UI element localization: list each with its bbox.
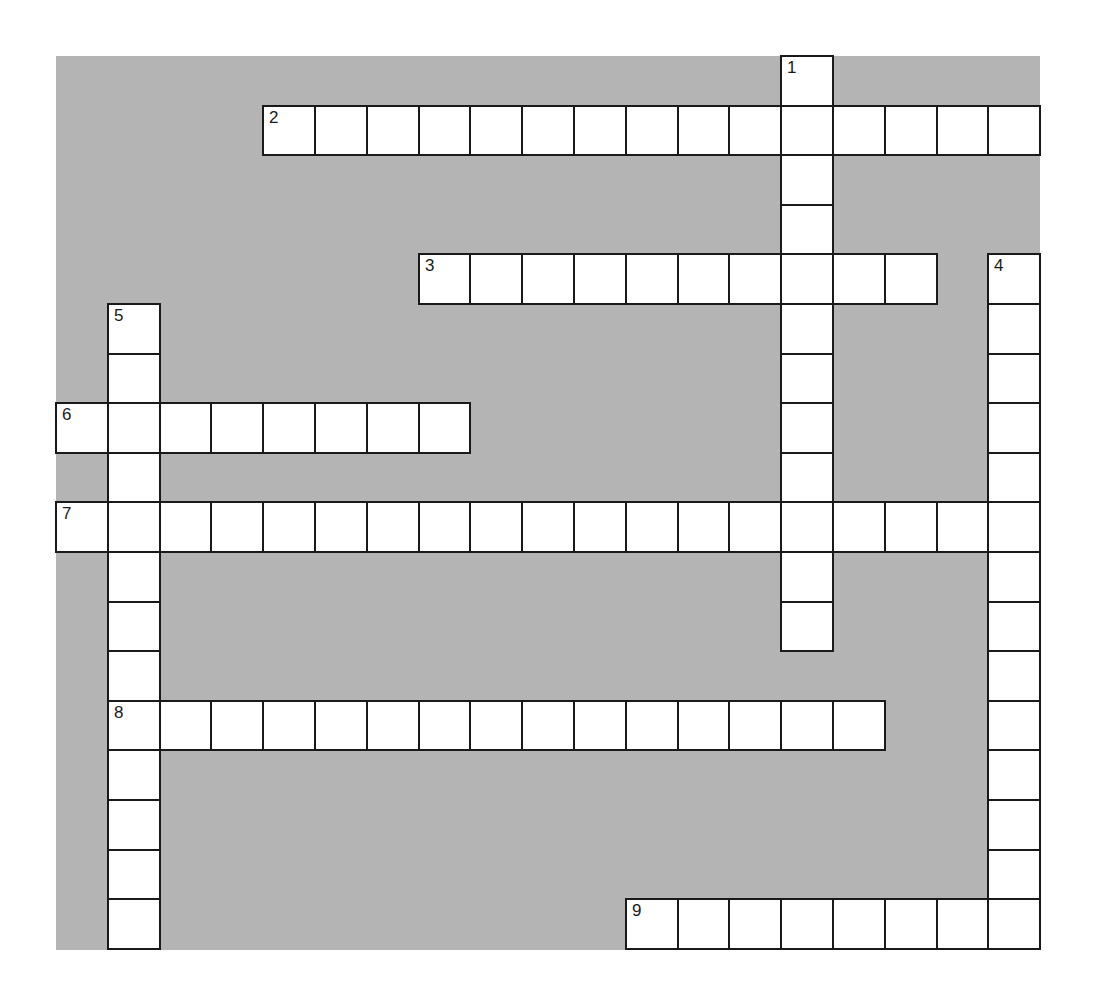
letter-input[interactable] bbox=[523, 255, 573, 303]
crossword-cell[interactable] bbox=[107, 601, 161, 652]
letter-input[interactable] bbox=[989, 851, 1039, 898]
letter-input[interactable] bbox=[938, 107, 987, 154]
crossword-cell[interactable] bbox=[987, 105, 1041, 156]
letter-input[interactable] bbox=[109, 851, 159, 898]
letter-input[interactable] bbox=[420, 255, 469, 303]
crossword-cell[interactable] bbox=[780, 253, 834, 305]
letter-input[interactable] bbox=[782, 107, 832, 154]
crossword-cell[interactable] bbox=[521, 253, 575, 305]
letter-input[interactable] bbox=[782, 503, 832, 551]
crossword-cell[interactable] bbox=[832, 898, 886, 950]
letter-input[interactable] bbox=[989, 900, 1039, 948]
crossword-cell[interactable] bbox=[418, 105, 471, 156]
crossword-cell[interactable] bbox=[107, 452, 161, 503]
crossword-cell[interactable] bbox=[832, 501, 886, 553]
letter-input[interactable] bbox=[782, 603, 832, 650]
letter-input[interactable] bbox=[730, 255, 780, 303]
crossword-cell[interactable] bbox=[780, 303, 834, 355]
crossword-cell[interactable]: 4 bbox=[987, 253, 1041, 305]
crossword-cell[interactable] bbox=[521, 501, 575, 553]
crossword-cell[interactable] bbox=[884, 105, 938, 156]
letter-input[interactable] bbox=[161, 503, 210, 551]
crossword-cell[interactable] bbox=[780, 898, 834, 950]
letter-input[interactable] bbox=[575, 107, 625, 154]
crossword-cell[interactable] bbox=[107, 849, 161, 900]
crossword-cell[interactable] bbox=[987, 700, 1041, 751]
letter-input[interactable] bbox=[57, 404, 107, 452]
crossword-cell[interactable] bbox=[987, 353, 1041, 404]
letter-input[interactable] bbox=[471, 702, 521, 749]
letter-input[interactable] bbox=[627, 255, 677, 303]
crossword-cell[interactable] bbox=[987, 898, 1041, 950]
crossword-cell[interactable] bbox=[625, 105, 679, 156]
letter-input[interactable] bbox=[109, 454, 159, 501]
crossword-cell[interactable] bbox=[107, 353, 161, 404]
crossword-cell[interactable] bbox=[832, 253, 886, 305]
letter-input[interactable] bbox=[109, 404, 159, 452]
crossword-cell[interactable] bbox=[987, 402, 1041, 454]
crossword-cell[interactable] bbox=[780, 601, 834, 652]
letter-input[interactable] bbox=[57, 503, 107, 551]
crossword-cell[interactable] bbox=[521, 700, 575, 751]
crossword-cell[interactable] bbox=[987, 749, 1041, 801]
crossword-cell[interactable] bbox=[677, 105, 730, 156]
letter-input[interactable] bbox=[316, 503, 366, 551]
crossword-cell[interactable] bbox=[625, 501, 679, 553]
letter-input[interactable] bbox=[730, 503, 780, 551]
letter-input[interactable] bbox=[109, 801, 159, 849]
crossword-cell[interactable] bbox=[780, 501, 834, 553]
crossword-cell[interactable] bbox=[987, 650, 1041, 702]
letter-input[interactable] bbox=[782, 57, 832, 105]
crossword-cell[interactable] bbox=[987, 849, 1041, 900]
crossword-cell[interactable] bbox=[469, 105, 523, 156]
crossword-cell[interactable]: 9 bbox=[625, 898, 679, 950]
letter-input[interactable] bbox=[989, 355, 1039, 402]
crossword-cell[interactable] bbox=[677, 898, 730, 950]
letter-input[interactable] bbox=[575, 503, 625, 551]
crossword-cell[interactable] bbox=[573, 105, 627, 156]
letter-input[interactable] bbox=[627, 107, 677, 154]
letter-input[interactable] bbox=[782, 900, 832, 948]
crossword-cell[interactable] bbox=[314, 105, 368, 156]
letter-input[interactable] bbox=[834, 503, 884, 551]
letter-input[interactable] bbox=[989, 107, 1039, 154]
crossword-cell[interactable] bbox=[780, 154, 834, 206]
letter-input[interactable] bbox=[212, 404, 262, 452]
letter-input[interactable] bbox=[471, 503, 521, 551]
crossword-cell[interactable]: 5 bbox=[107, 303, 161, 355]
crossword-cell[interactable] bbox=[884, 501, 938, 553]
letter-input[interactable] bbox=[523, 107, 573, 154]
crossword-cell[interactable] bbox=[884, 898, 938, 950]
crossword-cell[interactable] bbox=[936, 898, 989, 950]
letter-input[interactable] bbox=[938, 900, 987, 948]
crossword-cell[interactable] bbox=[832, 700, 886, 751]
letter-input[interactable] bbox=[109, 355, 159, 402]
crossword-cell[interactable] bbox=[418, 700, 471, 751]
letter-input[interactable] bbox=[989, 702, 1039, 749]
crossword-cell[interactable] bbox=[107, 898, 161, 950]
letter-input[interactable] bbox=[627, 503, 677, 551]
letter-input[interactable] bbox=[109, 603, 159, 650]
letter-input[interactable] bbox=[627, 702, 677, 749]
letter-input[interactable] bbox=[212, 503, 262, 551]
letter-input[interactable] bbox=[316, 107, 366, 154]
crossword-cell[interactable] bbox=[107, 402, 161, 454]
letter-input[interactable] bbox=[679, 900, 728, 948]
letter-input[interactable] bbox=[782, 305, 832, 353]
letter-input[interactable] bbox=[368, 404, 418, 452]
crossword-cell[interactable] bbox=[521, 105, 575, 156]
crossword-cell[interactable] bbox=[573, 700, 627, 751]
letter-input[interactable] bbox=[523, 503, 573, 551]
crossword-cell[interactable] bbox=[107, 551, 161, 603]
letter-input[interactable] bbox=[989, 603, 1039, 650]
letter-input[interactable] bbox=[989, 553, 1039, 601]
crossword-cell[interactable]: 7 bbox=[55, 501, 109, 553]
crossword-cell[interactable] bbox=[210, 700, 264, 751]
crossword-cell[interactable] bbox=[987, 501, 1041, 553]
crossword-cell[interactable]: 3 bbox=[418, 253, 471, 305]
crossword-cell[interactable] bbox=[987, 601, 1041, 652]
letter-input[interactable] bbox=[109, 553, 159, 601]
crossword-cell[interactable] bbox=[780, 402, 834, 454]
letter-input[interactable] bbox=[782, 553, 832, 601]
crossword-cell[interactable] bbox=[936, 105, 989, 156]
